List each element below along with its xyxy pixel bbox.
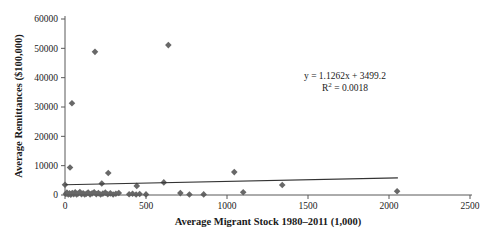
data-point	[394, 188, 401, 195]
y-tick-label: 30000	[34, 102, 58, 112]
trendline-equation: y = 1.1262x + 3499.2	[304, 71, 386, 83]
y-tick-label: 10000	[34, 161, 58, 171]
data-point	[231, 169, 238, 176]
x-tick-label: 1000	[218, 201, 237, 211]
data-point	[165, 42, 172, 49]
x-tick-label: 2000	[380, 201, 399, 211]
x-tick-label: 500	[139, 201, 154, 211]
trendline	[65, 178, 398, 185]
r2-result: = 0.0018	[332, 83, 368, 93]
data-point	[200, 191, 207, 198]
y-tick-label: 50000	[34, 44, 58, 54]
equation-annotation: y = 1.1262x + 3499.2 R2 = 0.0018	[304, 71, 386, 94]
y-tick-label: 20000	[34, 132, 58, 142]
chart-svg: 0100002000030000400005000060000050010001…	[0, 0, 496, 246]
y-axis-title: Average Remittances ($100,000)	[13, 34, 24, 178]
data-point	[67, 164, 74, 171]
y-tick-label: 0	[53, 190, 58, 200]
data-point	[92, 49, 99, 56]
y-tick-label: 60000	[34, 14, 58, 24]
data-point	[105, 170, 112, 177]
x-tick-label: 1500	[299, 201, 318, 211]
data-point	[279, 182, 286, 189]
x-tick-label: 0	[63, 201, 68, 211]
x-axis-title: Average Migrant Stock 1980–2011 (1,000)	[175, 216, 362, 227]
y-tick-label: 40000	[34, 73, 58, 83]
x-tick-label: 2500	[461, 201, 480, 211]
r-squared-value: R2 = 0.0018	[304, 83, 386, 95]
scatter-chart-figure: 0100002000030000400005000060000050010001…	[0, 0, 496, 246]
data-point	[69, 100, 76, 107]
